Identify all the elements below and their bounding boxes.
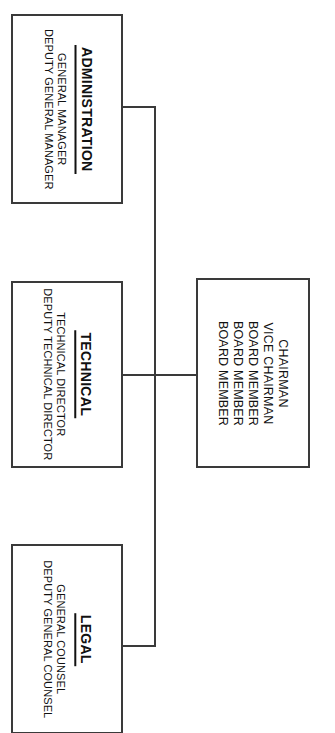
org-chart: ADMINISTRATION GENERAL MANAGER DEPUTY GE… xyxy=(0,0,335,733)
node-legal[interactable]: LEGAL GENERAL COUNSEL DEPUTY GENERAL COU… xyxy=(11,544,123,733)
connector-technical-horizontal xyxy=(121,374,156,376)
node-technical-role-1: DEPUTY TECHNICAL DIRECTOR xyxy=(41,288,54,460)
node-administration-role-0: GENERAL MANAGER xyxy=(54,53,67,165)
node-legal-content: LEGAL GENERAL COUNSEL DEPUTY GENERAL COU… xyxy=(13,546,121,732)
node-technical-title: TECHNICAL xyxy=(75,331,94,419)
node-legal-title: LEGAL xyxy=(75,613,94,666)
board-member-1: VICE CHAIRMAN xyxy=(260,322,275,424)
board-member-4: BOARD MEMBER xyxy=(215,320,230,425)
node-administration[interactable]: ADMINISTRATION GENERAL MANAGER DEPUTY GE… xyxy=(11,14,123,204)
node-administration-content: ADMINISTRATION GENERAL MANAGER DEPUTY GE… xyxy=(13,16,121,202)
board-member-0: CHAIRMAN xyxy=(275,339,290,407)
connector-trunk-vertical xyxy=(154,106,156,647)
connector-legal-horizontal xyxy=(121,645,156,647)
node-administration-title: ADMINISTRATION xyxy=(75,45,94,174)
node-technical-content: TECHNICAL TECHNICAL DIRECTOR DEPUTY TECH… xyxy=(13,283,121,466)
node-technical-role-0: TECHNICAL DIRECTOR xyxy=(54,312,67,436)
node-administration-role-1: DEPUTY GENERAL MANAGER xyxy=(41,29,54,190)
board-member-2: BOARD MEMBER xyxy=(245,320,260,425)
node-legal-role-0: GENERAL COUNSEL xyxy=(54,584,67,694)
node-technical[interactable]: TECHNICAL TECHNICAL DIRECTOR DEPUTY TECH… xyxy=(11,281,123,468)
connector-board-horizontal xyxy=(154,374,198,376)
connector-administration-horizontal xyxy=(121,106,156,108)
node-board-content: CHAIRMAN VICE CHAIRMAN BOARD MEMBER BOAR… xyxy=(198,280,308,466)
node-legal-role-1: DEPUTY GENERAL COUNSEL xyxy=(41,560,54,718)
board-member-3: BOARD MEMBER xyxy=(230,320,245,425)
node-board-of-directors[interactable]: CHAIRMAN VICE CHAIRMAN BOARD MEMBER BOAR… xyxy=(196,278,310,468)
